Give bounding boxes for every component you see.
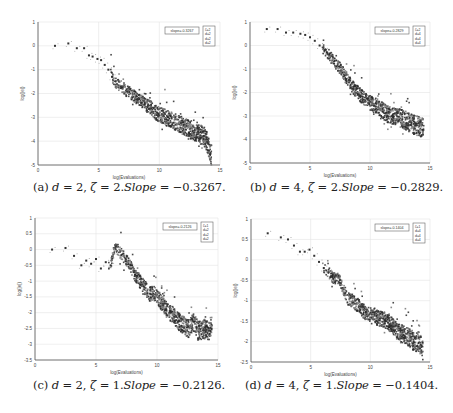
y-tick-label: -4 <box>31 139 35 144</box>
y-tick-label: -1 <box>31 67 35 72</box>
y-tick-label: -3 <box>28 342 32 347</box>
data-points <box>50 232 213 341</box>
y-tick-label: 0 <box>244 43 247 48</box>
x-tick-label: 15 <box>217 168 223 173</box>
x-axis-label: log(Evaluations) <box>110 370 143 375</box>
y-tick-label: -5 <box>31 163 35 168</box>
x-tick-label: 5 <box>309 365 312 370</box>
x-tick-label: 0 <box>249 166 252 171</box>
y-tick-label: -0.5 <box>240 278 248 283</box>
y-axis-label: log(|e|) <box>20 86 25 100</box>
x-axis-label: log(Evaluations) <box>324 173 357 178</box>
legend: slope=-0.2829ζ=2d=4d=4d=4 <box>375 26 425 46</box>
caption-c: (c) d = 2, ζ = 1.Slope = −0.2126. <box>33 378 225 392</box>
param-legend-entry: ζ=1 <box>415 225 420 229</box>
panel-a: 051015-5-4-3-2-101log(Evaluations)log(|e… <box>0 0 226 200</box>
data-points <box>265 231 423 361</box>
param-legend-entry: d=2 <box>205 32 211 36</box>
legend: slope=-0.2126ζ=1d=2d=2d=2 <box>163 222 213 242</box>
param-legend-entry: d=2 <box>205 41 211 45</box>
scatter-plot-a: 051015-5-4-3-2-101log(Evaluations)log(|e… <box>0 0 226 200</box>
panel-d: 051015-2.5-2-1.5-1-0.500.51log(Evaluatio… <box>226 200 453 413</box>
grid <box>35 218 218 360</box>
y-tick-label: -2 <box>28 310 32 315</box>
y-tick-label: 0.5 <box>26 231 33 236</box>
x-tick-label: 5 <box>97 168 100 173</box>
caption-b: (b) d = 4, ζ = 2.Slope = −0.2829. <box>250 180 443 194</box>
y-axis-label: log(|e|) <box>232 85 237 99</box>
y-tick-label: 1 <box>29 216 32 221</box>
param-legend-entry: d=2 <box>203 233 209 237</box>
panel-c: 051015-3.5-3-2.5-2-1.5-1-0.500.51log(Eva… <box>0 200 226 413</box>
slope-legend-text: slope=-0.1404 <box>381 226 404 230</box>
y-tick-label: -2.5 <box>240 360 248 365</box>
y-axis-label: log(|e|) <box>17 282 22 296</box>
y-axis-label: log(|e|) <box>233 283 238 297</box>
panel-b: 051015-5-4-3-2-101log(Evaluations)log(|e… <box>226 0 453 200</box>
slope-legend-text: slope=-0.2829 <box>381 29 404 33</box>
param-legend-entry: d=2 <box>203 228 209 232</box>
x-tick-label: 10 <box>157 168 163 173</box>
y-tick-label: -5 <box>243 161 247 166</box>
y-tick-label: -1 <box>243 67 247 72</box>
param-legend-entry: ζ=1 <box>203 224 208 228</box>
y-tick-label: -2.5 <box>24 326 32 331</box>
data-points <box>52 41 212 166</box>
y-tick-label: -2 <box>244 339 248 344</box>
grid <box>250 22 430 163</box>
param-legend-entry: d=4 <box>415 41 421 45</box>
param-legend-entry: ζ=2 <box>415 28 420 32</box>
y-tick-label: -3 <box>243 114 247 119</box>
y-tick-label: -1.5 <box>240 319 248 324</box>
x-tick-label: 10 <box>367 166 373 171</box>
y-tick-label: -1 <box>28 279 32 284</box>
x-tick-label: 10 <box>368 365 374 370</box>
y-tick-label: 0 <box>245 257 248 262</box>
legend: slope=-0.3267ζ=2d=2d=2d=2 <box>165 26 215 46</box>
x-tick-label: 15 <box>427 365 433 370</box>
y-tick-label: 0 <box>32 43 35 48</box>
slope-legend-text: slope=-0.3267 <box>171 29 194 33</box>
param-legend-entry: d=2 <box>203 237 209 241</box>
y-tick-label: -3 <box>31 115 35 120</box>
x-tick-label: 5 <box>95 363 98 368</box>
param-legend-entry: d=4 <box>415 238 421 242</box>
param-legend-entry: d=4 <box>415 234 421 238</box>
y-tick-label: 0 <box>29 247 32 252</box>
x-tick-label: 0 <box>250 365 253 370</box>
param-legend-entry: d=2 <box>205 37 211 41</box>
caption-d: (d) d = 4, ζ = 1.Slope = −0.1404. <box>245 378 438 392</box>
legend: slope=-0.1404ζ=1d=4d=4d=4 <box>375 223 425 243</box>
caption-a: (a) d = 2, ζ = 2.Slope = −0.3267. <box>33 180 225 194</box>
param-legend-entry: d=4 <box>415 37 421 41</box>
grid <box>251 219 430 362</box>
x-tick-label: 5 <box>309 166 312 171</box>
param-legend-entry: ζ=2 <box>205 28 210 32</box>
y-tick-label: -1.5 <box>24 294 32 299</box>
y-tick-label: 1 <box>245 217 248 222</box>
y-tick-label: -2 <box>31 91 35 96</box>
y-tick-label: 1 <box>32 20 35 25</box>
y-tick-label: -4 <box>243 137 247 142</box>
slope-legend-text: slope=-0.2126 <box>169 225 192 229</box>
x-tick-label: 10 <box>154 363 160 368</box>
y-tick-label: -0.5 <box>24 263 32 268</box>
y-tick-label: -2 <box>243 90 247 95</box>
x-tick-label: 15 <box>215 363 221 368</box>
data-points <box>264 27 424 138</box>
y-tick-label: 1 <box>244 20 247 25</box>
x-tick-label: 15 <box>427 166 433 171</box>
x-axis-label: log(Evaluations) <box>324 372 357 377</box>
y-tick-label: -3.5 <box>24 358 32 363</box>
x-tick-label: 0 <box>34 363 37 368</box>
y-tick-label: 0.5 <box>242 237 249 242</box>
param-legend-entry: d=4 <box>415 229 421 233</box>
y-tick-label: -1 <box>244 298 248 303</box>
x-tick-label: 0 <box>37 168 40 173</box>
param-legend-entry: d=4 <box>415 32 421 36</box>
scatter-plot-b: 051015-5-4-3-2-101log(Evaluations)log(|e… <box>226 0 453 200</box>
